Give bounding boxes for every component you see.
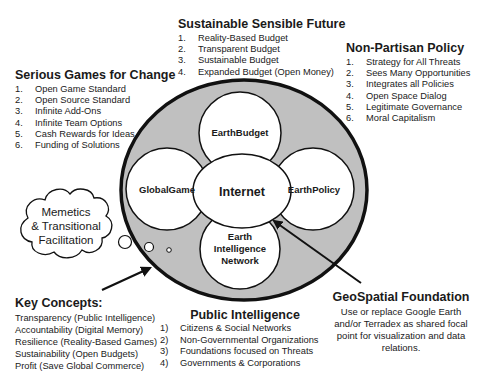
internet-label: Internet	[219, 186, 265, 198]
node-earthpolicy-label: EarthPolicy	[288, 184, 340, 196]
nonpartisan-section: Non-Partisan Policy 1.Strategy for All T…	[346, 41, 470, 124]
cloud-line-2: & Transitional	[31, 219, 101, 233]
thought-bubble-small	[167, 248, 172, 253]
list-item: 2.Transparent Budget	[178, 44, 345, 55]
geospatial-line-1: Use or replace Google Earth	[326, 306, 476, 318]
public-intelligence-list: 1)Citizens & Social Networks 2)Non-Gover…	[160, 323, 330, 369]
list-item: 1.Reality-Based Budget	[178, 33, 345, 44]
key-concepts-section: Key Concepts: Transparency (Public Intel…	[15, 296, 157, 372]
geospatial-title: GeoSpatial Foundation	[326, 290, 476, 304]
list-item: Transparency (Public Intelligence)	[15, 312, 157, 324]
thought-bubble-large	[119, 236, 132, 249]
nonpartisan-list: 1.Strategy for All Threats 2.Sees Many O…	[346, 57, 470, 124]
list-item: 3.Sustainable Budget	[178, 55, 345, 66]
geospatial-section: GeoSpatial Foundation Use or replace Goo…	[326, 290, 476, 354]
list-item: 3)Foundations focused on Threats	[160, 346, 330, 358]
cloud-line-3: Facilitation	[31, 233, 101, 247]
sustainable-section: Sustainable Sensible Future 1.Reality-Ba…	[178, 17, 345, 78]
geospatial-description: Use or replace Google Earth and/or Terra…	[326, 306, 476, 354]
list-item: 2)Non-Governmental Organizations	[160, 335, 330, 347]
public-intelligence-section: Public Intelligence 1)Citizens & Social …	[160, 308, 330, 369]
node-ein-line-1: Earth	[214, 231, 266, 243]
list-item: 5.Cash Rewards for Ideas	[15, 129, 175, 140]
list-item: Resilience (Reality-Based Games)	[15, 336, 157, 348]
serious-games-section: Serious Games for Change 1.Open Game Sta…	[15, 68, 175, 151]
list-item: 3.Integrates all Policies	[346, 79, 470, 90]
public-intelligence-title: Public Intelligence	[160, 308, 330, 322]
serious-games-title: Serious Games for Change	[15, 68, 175, 82]
list-item: 4.Open Space Dialog	[346, 91, 470, 102]
thought-bubble-medium	[145, 243, 154, 252]
list-item: 2.Open Source Standard	[15, 95, 175, 106]
list-item: 4)Governments & Corporations	[160, 358, 330, 370]
nonpartisan-title: Non-Partisan Policy	[346, 41, 470, 55]
sustainable-list: 1.Reality-Based Budget 2.Transparent Bud…	[178, 33, 345, 78]
node-earthbudget-label: EarthBudget	[212, 127, 269, 139]
list-item: Sustainability (Open Budgets)	[15, 348, 157, 360]
list-item: 4.Infinite Team Options	[15, 118, 175, 129]
node-ein-label: Earth Intelligence Network	[214, 231, 266, 267]
list-item: 4.Expanded Budget (Open Money)	[178, 67, 345, 78]
node-ein-line-3: Network	[214, 255, 266, 267]
list-item: 5.Legitimate Governance	[346, 102, 470, 113]
key-concepts-title: Key Concepts:	[15, 296, 157, 310]
list-item: 2.Sees Many Opportunities	[346, 68, 470, 79]
list-item: Profit (Save Global Commerce)	[15, 360, 157, 372]
geospatial-line-2: and/or Terradex as shared focal	[326, 318, 476, 330]
sustainable-title: Sustainable Sensible Future	[178, 17, 345, 31]
geospatial-line-4: relations.	[326, 342, 476, 354]
node-globalgame-label: GlobalGame	[139, 184, 195, 196]
list-item: 3.Infinite Add-Ons	[15, 106, 175, 117]
serious-games-list: 1.Open Game Standard 2.Open Source Stand…	[15, 84, 175, 151]
memetics-cloud-label: Memetics & Transitional Facilitation	[31, 205, 101, 247]
key-concepts-list: Transparency (Public Intelligence) Accou…	[15, 312, 157, 372]
list-item: 6.Moral Capitalism	[346, 113, 470, 124]
list-item: 1.Open Game Standard	[15, 84, 175, 95]
geospatial-line-3: point for visualization and data	[326, 330, 476, 342]
cloud-line-1: Memetics	[31, 205, 101, 219]
list-item: Accountability (Digital Memory)	[15, 324, 157, 336]
list-item: 1.Strategy for All Threats	[346, 57, 470, 68]
key-concepts-arrow	[102, 268, 150, 290]
list-item: 1)Citizens & Social Networks	[160, 323, 330, 335]
list-item: 6.Funding of Solutions	[15, 140, 175, 151]
node-ein-line-2: Intelligence	[214, 243, 266, 255]
